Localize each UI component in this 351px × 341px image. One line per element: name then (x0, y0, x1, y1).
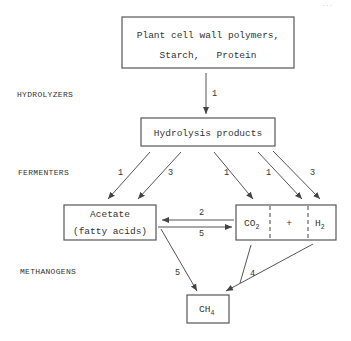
top-right-fragment: ... (322, 1, 333, 8)
node-acetate-line1: Acetate (90, 209, 130, 220)
node-polymers-line1: Plant cell wall polymers, (137, 30, 280, 41)
edge-hydrolysis-co2-1 (214, 152, 253, 199)
stage-label-fermenters: FERMENTERS (18, 168, 69, 177)
node-polymers-line2: Starch, Protein (160, 50, 257, 61)
stage-label-hydrolyzers: HYDROLYZERS (17, 90, 73, 99)
edge-hydrolysis-acetate-3 (138, 152, 181, 199)
node-co2-h2: CO2 + H2 (236, 205, 336, 240)
edge-label: 3 (310, 168, 315, 178)
edge-hydrolysis-acetate-1 (108, 152, 150, 199)
node-acetate: Acetate (fatty acids) (64, 205, 156, 240)
edge-label: 4 (250, 269, 255, 279)
edge-label: 1 (212, 89, 217, 99)
node-ch4: CH4 (187, 295, 229, 323)
edge-h2-ch4 (226, 244, 313, 291)
node-hydrolysis: Hydrolysis products (141, 118, 275, 146)
edge-label: 5 (175, 268, 180, 278)
edge-label: 1 (224, 168, 229, 178)
stage-label-methanogens: METHANOGENS (20, 267, 76, 276)
edge-label: 3 (168, 168, 173, 178)
edge-label: 1 (266, 168, 271, 178)
node-hydrolysis-label: Hydrolysis products (154, 128, 262, 139)
node-polymers: Plant cell wall polymers, Starch, Protei… (122, 17, 294, 68)
edge-label: 2 (199, 208, 204, 218)
methanogenesis-flow-diagram: ... HYDROLYZERS FERMENTERS METHANOGENS P… (0, 0, 351, 341)
node-acetate-line2: (fatty acids) (73, 226, 147, 237)
edge-hydrolysis-h2-1 (258, 152, 302, 199)
edge-acetate-ch4 (161, 229, 197, 291)
node-plus-label: + (286, 218, 292, 229)
edge-label: 5 (199, 229, 204, 239)
edge-label: 1 (118, 168, 123, 178)
